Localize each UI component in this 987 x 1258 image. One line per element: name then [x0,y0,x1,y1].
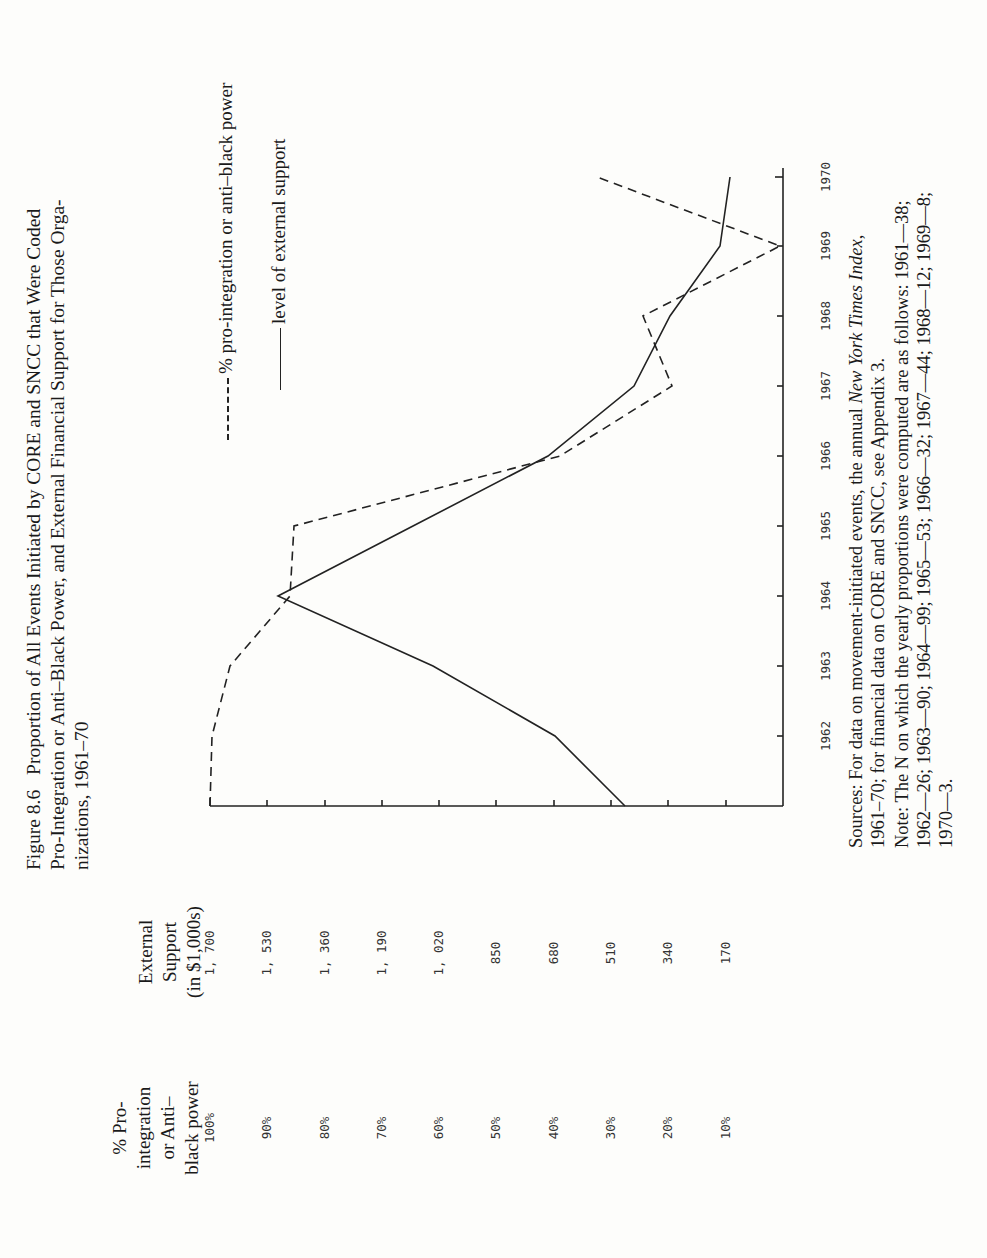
year-tick: 1962 [818,711,833,761]
year-tick: 1964 [818,571,833,621]
figure-notes: Sources: For data on movement-initiated … [845,128,959,848]
year-tick: 1969 [818,221,833,271]
n-note: Note: The N on which the yearly proporti… [891,128,957,848]
legend-solid: level of external support [268,139,290,390]
year-tick: 1965 [818,501,833,551]
chart-axes [210,168,783,806]
line-chart [0,0,987,1258]
series-pct-pro-integration [210,177,780,806]
year-tick: 1968 [818,291,833,341]
legend-dashed: % pro-integration or anti–black power [215,83,237,440]
year-tick: 1970 [818,152,833,202]
year-tick: 1967 [818,361,833,411]
series-external-support [278,177,730,806]
book-page: Figure 8.6 Proportion of All Events Init… [0,0,987,1258]
dashed-line-icon [227,378,229,440]
sources-note: Sources: For data on movement-initiated … [845,128,889,848]
year-tick: 1963 [818,641,833,691]
solid-line-icon [280,328,281,390]
year-tick: 1966 [818,431,833,481]
